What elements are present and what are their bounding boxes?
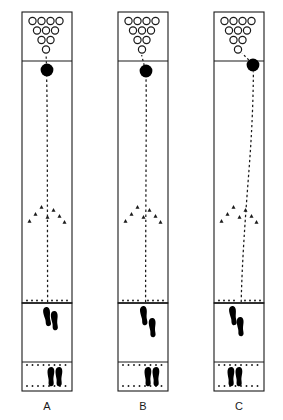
footprints-stance-a: [47, 367, 62, 386]
footprints-release-a: [43, 307, 59, 331]
approach-dot-row-upper-a: [26, 364, 66, 366]
panel-label-a: A: [37, 400, 57, 412]
bowling-ball-a: [41, 64, 54, 77]
bowling-lane-figure: A B C: [0, 0, 283, 420]
lane-panel-c: [214, 12, 264, 391]
lane-outline-a: [22, 12, 72, 303]
approach-dot-row-upper-b: [122, 364, 162, 366]
footprints-stance-b: [144, 367, 159, 386]
lane-outline-b: [118, 12, 168, 303]
lane-panel-a: [22, 12, 72, 391]
lane-panel-b: [118, 12, 168, 391]
lane-outline-c: [214, 12, 264, 303]
panel-label-b: B: [133, 400, 153, 412]
footprints-release-b: [140, 306, 157, 338]
bowling-ball-c: [247, 59, 260, 72]
figure-canvas: [0, 0, 283, 420]
footprints-stance-c: [227, 367, 242, 386]
footprints-release-c: [229, 306, 245, 337]
panel-label-c: C: [229, 400, 249, 412]
bowling-ball-b: [140, 65, 153, 78]
approach-dot-row-upper-c: [218, 364, 258, 366]
